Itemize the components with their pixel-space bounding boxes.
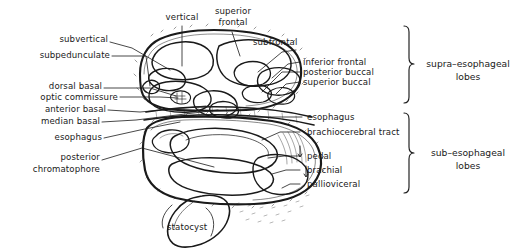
leader-pedal — [268, 156, 300, 158]
label-subvertical: subvertical — [0, 34, 108, 44]
anatomical-figure: vertical superior frontal subvertical su… — [0, 0, 522, 249]
brachiocerebral-tract-inner — [160, 134, 183, 138]
label-superior-frontal-line1: superior — [204, 6, 262, 16]
label-brachial: brachial — [307, 165, 342, 175]
subpedunculate-lobe — [143, 80, 160, 93]
label-superior-buccal: superior buccal — [303, 77, 371, 87]
group-label-supra-esophageal-line2: lobes — [418, 70, 518, 83]
group-label-sub-esophageal-line1: sub–esophageal — [418, 146, 518, 159]
leader-superior-frontal — [232, 32, 240, 56]
pallioviceral-lobe — [253, 155, 308, 195]
pedal-lobe-inner-fold — [186, 135, 269, 156]
label-subpedunculate: subpedunculate — [0, 50, 110, 60]
subfrontal-lobe — [234, 62, 270, 87]
brace-supra-esophageal — [404, 26, 414, 103]
label-posterior-chromatophore-line1: posterior — [0, 152, 100, 162]
label-esophagus-right: esophagus — [307, 112, 354, 122]
group-label-supra-esophageal: supra–esophageal lobes — [418, 57, 518, 83]
label-subfrontal: subfrontal — [253, 37, 297, 47]
fibrous-tract-shading — [278, 132, 306, 164]
label-pallioviceral: pallioviceral — [307, 179, 360, 189]
label-inferior-frontal: inferior frontal — [303, 57, 366, 67]
label-esophagus-left: esophagus — [0, 132, 102, 142]
posterior-buccal-lobe — [242, 85, 271, 103]
label-superior-frontal-line2: frontal — [204, 17, 262, 27]
group-label-sub-esophageal-line2: lobes — [418, 159, 518, 172]
ground-stipple — [236, 195, 309, 223]
brace-sub-esophageal — [404, 113, 414, 193]
label-statocyst: statocyst — [167, 222, 207, 232]
leader-lines-left — [102, 42, 218, 167]
label-pedal: pedal — [307, 151, 331, 161]
label-median-basal: median basal — [0, 116, 100, 126]
group-label-sub-esophageal: sub–esophageal lobes — [418, 146, 518, 172]
leader-brachiocerebral-tract — [262, 132, 300, 140]
optic-commissure-hatch — [175, 92, 186, 103]
group-label-supra-esophageal-line1: supra–esophageal — [418, 57, 518, 70]
label-posterior-chromatophore-line2: chromatophore — [0, 164, 100, 174]
leader-pallioviceral — [282, 184, 300, 188]
label-dorsal-basal: dorsal basal — [0, 81, 102, 91]
grouping-braces — [404, 26, 414, 193]
anterior-basal-lobe — [194, 91, 238, 117]
label-optic-commissure: optic commissure — [0, 92, 118, 102]
leader-brachial — [272, 170, 300, 174]
subesophageal-stipple — [140, 112, 324, 208]
label-posterior-buccal: posterior buccal — [303, 67, 374, 77]
label-anterior-basal: anterior basal — [0, 104, 106, 114]
label-brachiocerebral-tract: brachiocerebral tract — [307, 127, 399, 137]
